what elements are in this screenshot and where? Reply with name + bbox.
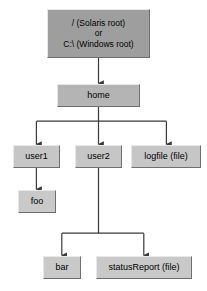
node-bar-label: bar xyxy=(55,262,68,273)
node-root: / (Solaris root) or C:\ (Windows root) xyxy=(47,9,150,58)
node-foo-label: foo xyxy=(31,196,44,207)
node-root-line-3: C:\ (Windows root) xyxy=(63,39,133,49)
node-user1: user1 xyxy=(13,145,60,168)
node-home: home xyxy=(57,84,140,107)
filesystem-tree-diagram: / (Solaris root) or C:\ (Windows root) h… xyxy=(0,0,207,291)
node-home-label: home xyxy=(87,90,110,101)
node-root-line-1: / (Solaris root) xyxy=(72,18,125,28)
node-statusreport: statusReport (file) xyxy=(96,256,192,279)
edge-user2-to-children xyxy=(62,168,144,255)
node-user2: user2 xyxy=(75,145,122,168)
node-bar: bar xyxy=(43,256,81,279)
node-foo: foo xyxy=(18,190,56,213)
node-user2-label: user2 xyxy=(87,151,110,162)
node-user1-label: user1 xyxy=(25,151,48,162)
node-logfile: logfile (file) xyxy=(131,145,201,168)
edge-home-to-children xyxy=(36,107,166,144)
node-root-line-2: or xyxy=(95,28,103,38)
node-logfile-label: logfile (file) xyxy=(144,151,188,162)
node-statusreport-label: statusReport (file) xyxy=(108,262,179,273)
